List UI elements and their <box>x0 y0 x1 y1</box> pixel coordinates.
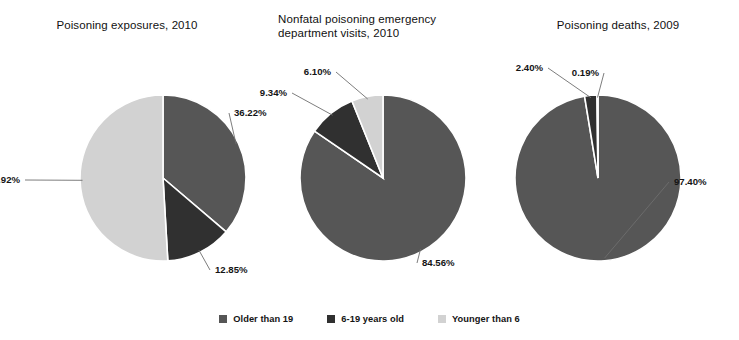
pie-slice-value-label: 97.40% <box>674 176 707 187</box>
label-leader-line <box>336 72 368 99</box>
pie-slice-value-label: 50.92% <box>0 174 20 185</box>
legend-item-younger-than-6: Younger than 6 <box>438 314 520 324</box>
pie-chart-figure: Poisoning exposures, 2010 36.22%12.85%50… <box>0 0 739 340</box>
pie-slice-value-label: 9.34% <box>260 87 288 98</box>
legend-item-label: Older than 19 <box>233 314 293 324</box>
pie-container-2: 84.56%9.34%6.10% <box>252 0 497 300</box>
pie-chart-1: 36.22%12.85%50.92% <box>2 0 252 300</box>
pie-slice <box>597 95 598 178</box>
legend-item-label: Younger than 6 <box>452 314 520 324</box>
legend-swatch-icon <box>438 315 446 323</box>
pie-slice-value-label: 2.40% <box>516 62 544 73</box>
legend-swatch-icon <box>219 315 227 323</box>
chart-panel-poisoning-exposures: Poisoning exposures, 2010 36.22%12.85%50… <box>2 0 252 300</box>
pie-slice-value-label: 0.19% <box>572 67 600 78</box>
pie-slice-value-label: 6.10% <box>304 66 332 77</box>
pie-slice <box>80 95 168 261</box>
legend-item-label: 6-19 years old <box>341 314 404 324</box>
pie-chart-2: 84.56%9.34%6.10% <box>252 0 497 300</box>
pie-slice-label-group: 0.19% <box>572 67 604 97</box>
pie-slice-label-group: 84.56% <box>417 249 455 268</box>
label-leader-line <box>292 93 333 115</box>
pie-container-1: 36.22%12.85%50.92% <box>2 0 252 300</box>
label-leader-line <box>199 250 210 270</box>
pie-chart-3: 97.40%2.40%0.19% <box>497 0 739 300</box>
legend-swatch-icon <box>327 315 335 323</box>
pie-slice-label-group: 6.10% <box>304 66 368 99</box>
pie-container-3: 97.40%2.40%0.19% <box>497 0 739 300</box>
chart-legend: Older than 19 6-19 years old Younger tha… <box>0 310 739 328</box>
chart-panel-nonfatal-poisoning-ed-visits: Nonfatal poisoning emergency department … <box>252 0 497 300</box>
pie-slice-label-group: 50.92% <box>0 174 83 185</box>
pie-slice-label-group: 12.85% <box>199 250 248 275</box>
pie-slice-value-label: 12.85% <box>215 264 248 275</box>
legend-item-6-19-years-old: 6-19 years old <box>327 314 404 324</box>
chart-panel-poisoning-deaths: Poisoning deaths, 2009 97.40%2.40%0.19% <box>497 0 739 300</box>
pie-slice-label-group: 9.34% <box>260 87 333 115</box>
legend-item-older-than-19: Older than 19 <box>219 314 293 324</box>
pie-slice-value-label: 84.56% <box>422 257 455 268</box>
